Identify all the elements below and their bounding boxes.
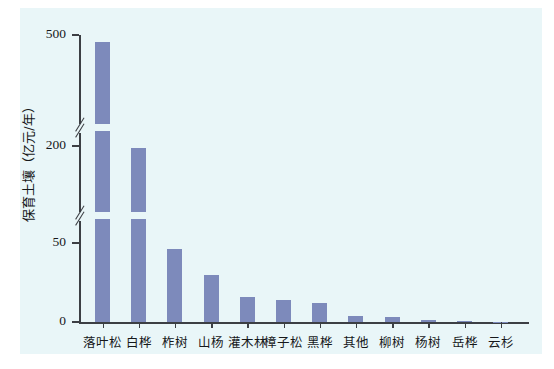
y-axis-tick-label: 0 xyxy=(6,313,66,329)
y-axis-tick-label: 50 xyxy=(6,234,66,250)
x-axis-tick xyxy=(428,322,430,328)
x-axis-tick xyxy=(139,322,141,328)
axis-break-mask xyxy=(77,124,82,133)
bar xyxy=(167,249,182,322)
bar-axis-break-gap xyxy=(95,124,110,131)
y-axis-tick xyxy=(72,321,79,323)
x-axis-tick xyxy=(465,322,467,328)
x-axis-tick xyxy=(392,322,394,328)
x-axis-tick xyxy=(501,322,503,328)
y-axis-line xyxy=(79,35,81,323)
x-axis-tick xyxy=(175,322,177,328)
x-axis-tick xyxy=(284,322,286,328)
y-axis-tick-label: 500 xyxy=(6,26,66,42)
axis-break-mask xyxy=(77,212,82,221)
y-axis-tick xyxy=(72,145,79,147)
bar xyxy=(240,297,255,322)
x-axis-tick xyxy=(247,322,249,328)
x-axis-tick xyxy=(211,322,213,328)
bar xyxy=(95,42,110,322)
y-axis-tick xyxy=(72,242,79,244)
bar xyxy=(204,275,219,322)
x-axis-tick xyxy=(356,322,358,328)
x-axis-tick xyxy=(103,322,105,328)
bar xyxy=(312,303,327,322)
x-axis-tick xyxy=(320,322,322,328)
x-axis-tick-label: 云杉 xyxy=(470,332,532,351)
x-axis-line xyxy=(79,322,529,324)
plot-area: 050200500落叶松白桦柞树山杨灌木林樟子松黑桦其他柳树杨树岳桦云杉 xyxy=(0,0,554,369)
bar xyxy=(276,300,291,322)
bar xyxy=(131,148,146,322)
bar-axis-break-gap xyxy=(131,212,146,219)
chart-figure: 保育土壤（亿元/年） 050200500落叶松白桦柞树山杨灌木林樟子松黑桦其他柳… xyxy=(0,0,554,369)
y-axis-tick xyxy=(72,34,79,36)
bar-axis-break-gap xyxy=(95,212,110,219)
y-axis-tick-label: 200 xyxy=(6,137,66,153)
